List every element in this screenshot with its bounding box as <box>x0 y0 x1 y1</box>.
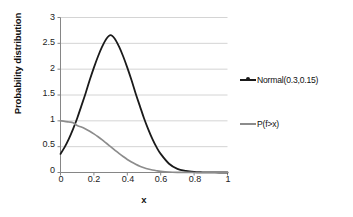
x-tick-label: 0.8 <box>183 174 207 184</box>
legend-marker-icon <box>240 119 256 129</box>
legend-item-survival[interactable]: P(f>x) <box>240 118 279 130</box>
x-tick-label: 0.2 <box>82 174 106 184</box>
legend-label: P(f>x) <box>256 119 279 129</box>
x-tick-label: 0 <box>49 174 73 184</box>
legend-label: Normal(0.3,0.15) <box>256 75 318 85</box>
legend-item-normal[interactable]: Normal(0.3,0.15) <box>240 74 318 86</box>
legend-marker-icon <box>240 75 256 85</box>
chart-container: Probability distribution 3 2.5 2 1.5 1 0… <box>0 0 353 217</box>
x-axis-tick-labels: 0 0.2 0.4 0.6 0.8 1 <box>0 174 353 186</box>
chart-legend: Normal(0.3,0.15) P(f>x) <box>240 56 353 146</box>
x-axis-title: x <box>60 194 228 205</box>
series-line-normal <box>61 35 228 172</box>
x-tick-label: 1 <box>216 174 240 184</box>
x-tick-label: 0.6 <box>149 174 173 184</box>
x-tick-label: 0.4 <box>116 174 140 184</box>
